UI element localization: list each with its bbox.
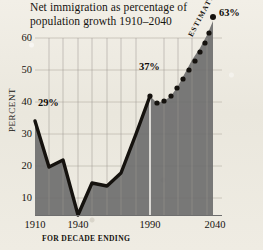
data-label-29: 29% [38, 97, 59, 108]
data-label-63: 63% [219, 7, 240, 18]
immigration-chart: Net immigration as percentage of populat… [0, 0, 263, 250]
x-axis-caption: FOR DECADE ENDING [42, 234, 130, 243]
x-tick-1940: 1940 [68, 219, 89, 230]
x-tick-2040: 2040 [205, 219, 226, 230]
data-label-37: 37% [139, 61, 160, 72]
chart-canvas [0, 0, 263, 250]
x-tick-1990: 1990 [140, 219, 161, 230]
area-fill [35, 21, 213, 215]
x-tick-1910: 1910 [25, 219, 46, 230]
